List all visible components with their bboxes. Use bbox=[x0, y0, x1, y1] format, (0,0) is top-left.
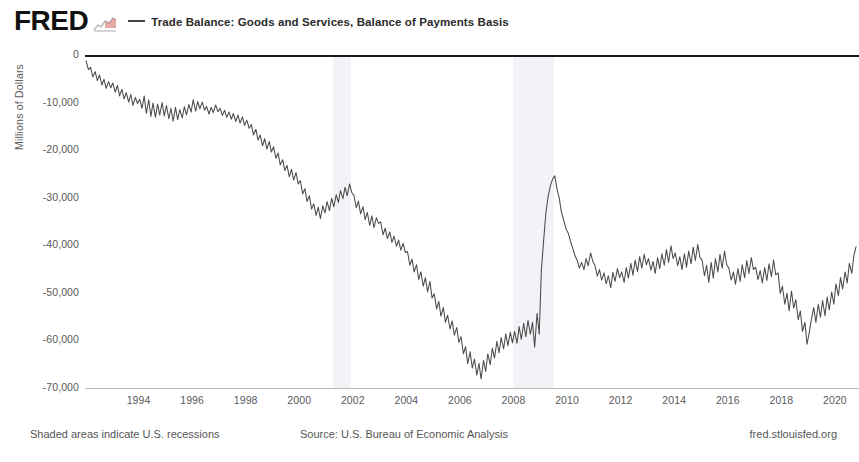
chart-header: FRED Trade Balance: Goods and Services, … bbox=[0, 0, 859, 42]
plot-area bbox=[85, 55, 859, 388]
x-axis-tick-label: 2010 bbox=[555, 394, 579, 406]
y-axis-tick-label: -20,000 bbox=[5, 143, 79, 155]
recession-note: Shaded areas indicate U.S. recessions bbox=[30, 428, 220, 440]
legend-series-label: Trade Balance: Goods and Services, Balan… bbox=[151, 16, 509, 28]
x-axis-tick-label: 2008 bbox=[502, 394, 526, 406]
legend-line-icon bbox=[128, 20, 145, 22]
x-axis-tick-label: 2006 bbox=[448, 394, 472, 406]
x-axis-tick-label: 2004 bbox=[394, 394, 418, 406]
x-axis-tick-label: 2020 bbox=[823, 394, 847, 406]
fred-chart-figure: FRED Trade Balance: Goods and Services, … bbox=[0, 0, 859, 462]
fred-squiggle-icon bbox=[92, 14, 118, 34]
y-axis-tick-label: -50,000 bbox=[5, 286, 79, 298]
chart-legend: Trade Balance: Goods and Services, Balan… bbox=[128, 16, 509, 28]
x-axis-tick-label: 2002 bbox=[341, 394, 365, 406]
trade-balance-series bbox=[85, 55, 859, 388]
y-axis-tick-label: -10,000 bbox=[5, 96, 79, 108]
x-axis-tick-label: 1998 bbox=[234, 394, 258, 406]
x-axis-line bbox=[85, 388, 859, 389]
x-axis-tick-label: 2016 bbox=[716, 394, 740, 406]
y-axis-tick-label: -30,000 bbox=[5, 191, 79, 203]
x-axis-tick-label: 2018 bbox=[769, 394, 793, 406]
x-axis-tick-label: 2012 bbox=[609, 394, 633, 406]
data-source-note: Source: U.S. Bureau of Economic Analysis bbox=[300, 428, 508, 440]
y-axis-tick-label: -60,000 bbox=[5, 333, 79, 345]
y-axis-tick-label: -40,000 bbox=[5, 238, 79, 250]
x-axis-tick-label: 2014 bbox=[662, 394, 686, 406]
fred-url[interactable]: fred.stlouisfed.org bbox=[750, 428, 837, 440]
x-axis-tick-label: 1996 bbox=[180, 394, 204, 406]
chart-footer: Shaded areas indicate U.S. recessions So… bbox=[0, 428, 859, 448]
x-axis: 1994199619982000200220042006200820102012… bbox=[85, 394, 859, 410]
y-axis-tick-label: -70,000 bbox=[5, 381, 79, 393]
x-axis-tick-label: 2000 bbox=[287, 394, 311, 406]
y-axis-tick-label: 0 bbox=[5, 48, 79, 60]
y-axis: Millions of Dollars 0-10,000-20,000-30,0… bbox=[0, 0, 79, 462]
x-axis-tick-label: 1994 bbox=[127, 394, 151, 406]
